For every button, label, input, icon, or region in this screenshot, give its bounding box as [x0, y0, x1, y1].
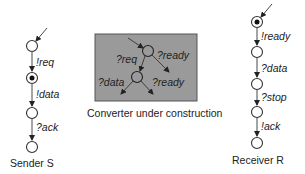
- receiver-label-data: ?data: [261, 62, 287, 74]
- receiver-state-4: [252, 138, 263, 149]
- receiver-label-ack: !ack: [261, 120, 281, 132]
- converter-caption: Converter under construction: [87, 107, 223, 119]
- sender-label-ack: ?ack: [36, 121, 59, 133]
- receiver-state-1: [252, 47, 263, 58]
- converter-state-0: [143, 46, 154, 57]
- converter-box: [95, 34, 197, 101]
- sender-state-2: [27, 108, 38, 119]
- protocol-converter-diagram: !req !data ?ack Sender S ?ready ?req ?da…: [0, 0, 305, 174]
- receiver-caption: Receiver R: [232, 154, 284, 166]
- receiver-initial-arrow: [261, 4, 272, 17]
- converter-label-ready-1: ?ready: [157, 49, 190, 61]
- sender-state-3: [27, 142, 38, 153]
- current-state-dot-icon: [255, 20, 260, 25]
- sender-state-0: [27, 41, 38, 52]
- converter-automaton: ?ready ?req ?data ?ready Converter under…: [87, 34, 223, 119]
- converter-label-data: ?data: [98, 76, 124, 88]
- receiver-state-3: [252, 107, 263, 118]
- sender-initial-arrow: [36, 28, 47, 41]
- sender-automaton: !req !data ?ack Sender S: [10, 28, 60, 169]
- sender-caption: Sender S: [10, 157, 54, 169]
- sender-label-data: !data: [36, 88, 60, 100]
- receiver-label-ready: !ready: [261, 30, 291, 42]
- converter-label-req: ?req: [116, 53, 137, 65]
- converter-label-ready-2: ?ready: [152, 76, 185, 88]
- receiver-state-2: [252, 79, 263, 90]
- converter-state-1: [132, 72, 143, 83]
- receiver-automaton: !ready ?data ?stop !ack Receiver R: [232, 4, 291, 166]
- current-state-dot-icon: [30, 76, 35, 81]
- receiver-label-stop: ?stop: [261, 91, 287, 103]
- sender-label-req: !req: [36, 56, 54, 68]
